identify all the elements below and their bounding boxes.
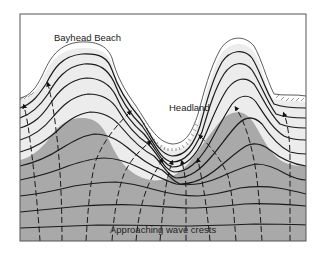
wave-refraction-diagram (0, 0, 323, 257)
headland-label: Headland (169, 102, 210, 113)
approaching-wave-crests-label: Approaching wave crests (110, 224, 216, 235)
bayhead-beach-label: Bayhead Beach (54, 32, 121, 43)
